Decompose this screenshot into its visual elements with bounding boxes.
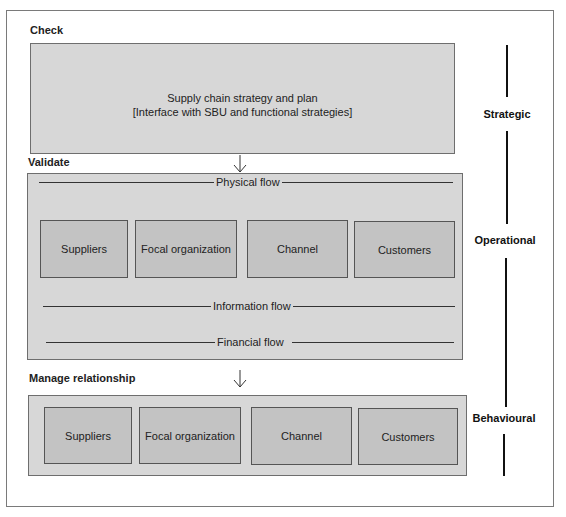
- level-axis-segment: [506, 131, 508, 224]
- validate-entity-channel: Channel: [247, 220, 348, 278]
- arrow-down-icon: [233, 370, 247, 388]
- validate-entity-focal-organization: Focal organization: [135, 220, 237, 278]
- validate-label: Validate: [28, 156, 70, 168]
- level-label-behavioural: Behavioural: [459, 412, 549, 424]
- relationship-entity-suppliers: Suppliers: [44, 407, 132, 464]
- strategy-title: Supply chain strategy and plan: [31, 91, 454, 105]
- level-axis-segment: [503, 434, 505, 476]
- relationship-entity-channel: Channel: [251, 407, 352, 465]
- relationship-entity-focal-organization: Focal organization: [139, 407, 241, 464]
- level-label-strategic: Strategic: [462, 108, 552, 120]
- validate-entity-customers: Customers: [354, 221, 455, 278]
- physical-flow-label: Physical flow: [214, 176, 282, 188]
- level-axis-segment: [506, 45, 508, 97]
- manage-relationship-label: Manage relationship: [29, 372, 135, 384]
- information-flow-label: Information flow: [211, 300, 293, 312]
- level-axis-segment: [505, 258, 507, 407]
- level-label-operational: Operational: [460, 234, 550, 246]
- check-label: Check: [30, 24, 63, 36]
- strategy-box: Supply chain strategy and plan [Interfac…: [30, 43, 455, 154]
- financial-flow-label: Financial flow: [215, 336, 292, 348]
- strategy-subtitle: [Interface with SBU and functional strat…: [31, 105, 454, 119]
- arrow-down-icon: [233, 155, 247, 173]
- validate-entity-suppliers: Suppliers: [40, 220, 128, 278]
- relationship-entity-customers: Customers: [358, 408, 458, 465]
